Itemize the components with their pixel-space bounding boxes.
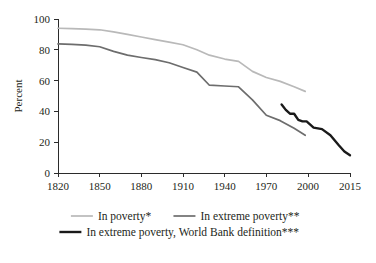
- y-axis-title: Percent: [12, 80, 24, 113]
- y-tick-label: 0: [45, 167, 51, 179]
- chart-legend: In poverty*In extreme poverty**In extrem…: [59, 210, 299, 239]
- x-axis: 18201850188019101940197020002015: [47, 173, 362, 192]
- series-line-1: [58, 44, 305, 135]
- series-layer: [58, 28, 350, 155]
- poverty-line-chart: 020406080100 182018501880191019401970200…: [0, 0, 376, 263]
- x-tick-label: 1820: [47, 180, 70, 192]
- x-tick-label: 2000: [297, 180, 320, 192]
- x-tick-label: 2015: [339, 180, 362, 192]
- y-tick-label: 20: [39, 136, 51, 148]
- chart-figure: 020406080100 182018501880191019401970200…: [0, 0, 376, 263]
- x-tick-label: 1940: [214, 180, 237, 192]
- y-axis-title-text: Percent: [12, 80, 24, 113]
- legend-label: In poverty*: [98, 210, 152, 223]
- y-tick-label: 40: [39, 105, 51, 117]
- y-tick-label: 100: [34, 13, 51, 25]
- y-tick-label: 60: [39, 75, 51, 87]
- x-tick-label: 1850: [89, 180, 112, 192]
- x-tick-label: 1910: [172, 180, 195, 192]
- x-tick-label: 1880: [130, 180, 153, 192]
- series-line-2: [282, 104, 350, 155]
- x-tick-label: 1970: [255, 180, 278, 192]
- y-axis: 020406080100: [34, 13, 59, 179]
- legend-label: In extreme poverty**: [200, 210, 299, 223]
- legend-label: In extreme poverty, World Bank definitio…: [86, 226, 299, 239]
- y-tick-label: 80: [39, 44, 51, 56]
- series-line-0: [58, 28, 305, 91]
